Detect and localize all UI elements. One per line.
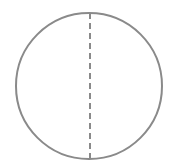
circle-diagram xyxy=(0,0,170,163)
